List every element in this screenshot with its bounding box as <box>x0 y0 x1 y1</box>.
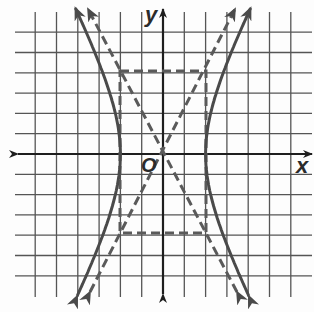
hyperbola-graph: y x O <box>0 0 314 312</box>
origin-label: O <box>141 155 157 175</box>
hyperbola-left-branch <box>75 8 120 296</box>
y-axis-label: y <box>145 4 157 26</box>
x-axis-label: x <box>296 155 308 177</box>
coordinate-plane <box>0 0 314 312</box>
